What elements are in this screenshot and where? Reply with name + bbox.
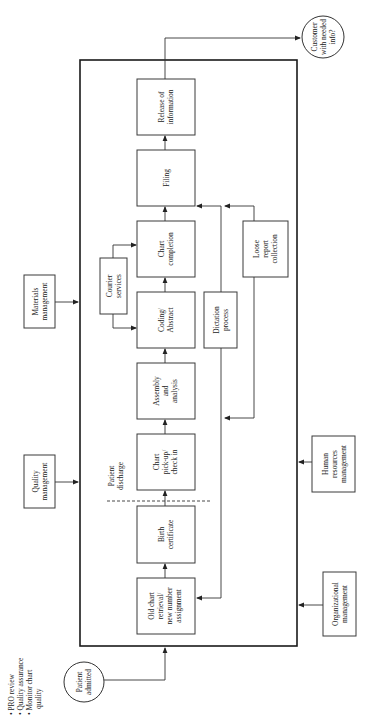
discharge-label: Patient discharge (107, 461, 125, 490)
svg-text:and: and (161, 385, 170, 396)
organizational-management-box: Organizational management (323, 572, 356, 636)
svg-text:management: management (40, 462, 49, 501)
dictation-to-old-chart (197, 348, 221, 598)
svg-text:resources: resources (330, 450, 339, 478)
svg-text:admitted: admitted (84, 669, 93, 695)
svg-text:• PRO review: • PRO review (7, 674, 16, 715)
loose-report-box: Loose report collection (243, 221, 288, 277)
svg-text:• Monitor chart: • Monitor chart (25, 669, 34, 715)
svg-text:Organizational: Organizational (331, 582, 340, 626)
svg-text:quality: quality (34, 688, 43, 709)
svg-text:analysis: analysis (170, 379, 179, 403)
svg-text:services: services (114, 274, 123, 298)
end-node-customer: Customer with needed info? (302, 16, 344, 58)
svg-text:assignment: assignment (174, 588, 183, 622)
svg-text:Dictation: Dictation (212, 306, 221, 334)
courier-to-completion (113, 245, 136, 258)
step-filing: Filing (137, 150, 195, 206)
start-node-patient-admitted: Patient admitted (64, 662, 104, 702)
quality-management-box: Quality management (24, 455, 55, 508)
svg-text:Filing: Filing (162, 169, 171, 187)
svg-text:Birth: Birth (157, 527, 166, 542)
svg-text:Customer: Customer (310, 22, 319, 51)
svg-text:Loose: Loose (252, 239, 261, 258)
svg-text:with needed: with needed (319, 19, 328, 55)
svg-text:Materials: Materials (31, 287, 40, 315)
process-diagram: • PRO review • Quality assurance • Monit… (0, 0, 367, 723)
step-chart-pickup: Chart pick-up/ check in (137, 434, 195, 490)
courier-to-coding (113, 314, 136, 328)
svg-text:discharge: discharge (116, 461, 125, 490)
step-release: Release of information (137, 79, 195, 135)
svg-text:Assembly: Assembly (152, 376, 161, 406)
svg-text:• Quality assurance: • Quality assurance (16, 657, 25, 715)
svg-text:info?: info? (328, 29, 337, 44)
notes-list: • PRO review • Quality assurance • Monit… (7, 657, 43, 715)
output-arrow (165, 38, 300, 79)
dictation-to-filing (197, 206, 221, 292)
courier-services-box: Courier services (100, 258, 127, 314)
svg-text:Patient: Patient (107, 465, 116, 486)
svg-text:Abstract: Abstract (166, 307, 175, 333)
step-birth-certificate: Birth certificate (137, 506, 195, 563)
step-coding: Coding/ Abstract (137, 292, 195, 348)
svg-text:retrieval/: retrieval/ (156, 592, 165, 620)
svg-text:Courier: Courier (105, 274, 114, 297)
step-chart-completion: Chart completion (137, 221, 195, 277)
loose-to-filing (225, 206, 254, 221)
svg-text:management: management (340, 584, 349, 623)
step-old-chart: Old chart retrieval/ new number assignme… (137, 578, 195, 634)
svg-text:Chart: Chart (152, 453, 161, 470)
svg-text:pick-up/: pick-up/ (161, 449, 170, 475)
svg-text:Chart: Chart (157, 240, 166, 257)
svg-text:check in: check in (170, 449, 179, 474)
svg-text:process: process (221, 309, 230, 331)
svg-text:Quality: Quality (31, 470, 40, 492)
svg-text:collection: collection (270, 234, 279, 263)
svg-text:Release of: Release of (157, 91, 166, 123)
svg-text:certificate: certificate (166, 519, 175, 549)
admit-arrow (104, 648, 165, 680)
svg-text:Human: Human (321, 453, 330, 475)
svg-text:Old chart: Old chart (147, 591, 156, 620)
svg-text:Patient: Patient (75, 671, 84, 692)
dictation-process-box: Dictation process (204, 292, 237, 348)
svg-text:new number: new number (165, 587, 174, 624)
svg-text:report: report (261, 239, 270, 258)
svg-text:management: management (40, 282, 49, 321)
svg-text:Coding/: Coding/ (157, 307, 166, 332)
svg-text:completion: completion (166, 232, 175, 266)
human-resources-box: Human resources management (312, 436, 355, 492)
svg-text:management: management (339, 444, 348, 483)
materials-management-box: Materials management (24, 275, 55, 328)
svg-text:information: information (166, 89, 175, 124)
step-assembly: Assembly and analysis (137, 363, 195, 419)
